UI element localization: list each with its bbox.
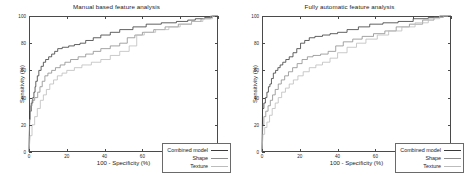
y-tick-mark — [262, 70, 265, 71]
x-tick-mark — [218, 16, 219, 19]
y-tick-label: 0 — [256, 150, 259, 155]
y-tick-label: 100 — [251, 14, 259, 19]
panel-title-manual: Manual based feature analysis — [0, 3, 233, 11]
x-tick-mark — [180, 16, 181, 19]
x-tick-mark — [142, 149, 143, 152]
legend-entry: Combined model — [167, 146, 228, 154]
legend-entry: Shape — [167, 154, 228, 162]
y-tick-mark — [448, 125, 451, 126]
plot-area-automatic: 020406080100020406080100 — [262, 16, 451, 152]
x-tick-mark — [67, 16, 68, 19]
x-tick-mark — [451, 16, 452, 19]
y-tick-label: 40 — [21, 95, 26, 100]
legend-right: Combined model Shape Texture — [395, 143, 464, 173]
legend-line-swatch — [211, 166, 228, 167]
y-tick-mark — [215, 70, 218, 71]
y-tick-mark — [262, 152, 265, 153]
y-tick-mark — [215, 43, 218, 44]
y-tick-mark — [262, 98, 265, 99]
legend-label: Combined model — [400, 147, 441, 153]
roc-curves-right — [262, 16, 451, 152]
x-tick-label: 0 — [261, 154, 264, 159]
x-tick-mark — [338, 16, 339, 19]
legend-left: Combined model Shape Texture — [162, 143, 231, 173]
y-tick-label: 80 — [254, 41, 259, 46]
x-tick-label: 40 — [102, 154, 107, 159]
x-tick-mark — [105, 16, 106, 19]
x-tick-mark — [338, 149, 339, 152]
y-tick-mark — [262, 125, 265, 126]
y-tick-label: 80 — [21, 41, 26, 46]
y-axis-label-wrap-left: Sensitivity (%) — [6, 16, 18, 152]
legend-line-swatch — [444, 166, 461, 167]
x-tick-mark — [375, 149, 376, 152]
x-tick-mark — [105, 149, 106, 152]
x-tick-label: 0 — [28, 154, 31, 159]
y-tick-mark — [448, 43, 451, 44]
x-tick-label: 20 — [64, 154, 69, 159]
roc-figure: Manual based feature analysis Sensitivit… — [0, 0, 466, 176]
legend-entry: Texture — [400, 162, 461, 170]
x-tick-mark — [413, 16, 414, 19]
x-tick-mark — [300, 149, 301, 152]
panel-automatic: Fully automatic feature analysis Sensiti… — [233, 0, 466, 176]
legend-line-swatch — [444, 158, 461, 159]
y-tick-mark — [29, 70, 32, 71]
y-tick-mark — [29, 98, 32, 99]
x-tick-label: 40 — [335, 154, 340, 159]
legend-line-swatch — [211, 158, 228, 159]
x-tick-mark — [300, 16, 301, 19]
y-tick-mark — [29, 43, 32, 44]
legend-label: Shape — [192, 155, 208, 161]
legend-entry: Combined model — [400, 146, 461, 154]
roc-curve-shape — [29, 16, 218, 152]
y-axis-label-right: Sensitivity (%) — [252, 44, 258, 124]
y-tick-mark — [29, 152, 32, 153]
y-tick-label: 20 — [21, 122, 26, 127]
panel-manual: Manual based feature analysis Sensitivit… — [0, 0, 233, 176]
legend-label: Combined model — [167, 147, 208, 153]
roc-curves-left — [29, 16, 218, 152]
panel-title-automatic: Fully automatic feature analysis — [233, 3, 466, 11]
legend-line-swatch — [211, 150, 228, 151]
y-tick-label: 40 — [254, 95, 259, 100]
y-tick-mark — [29, 125, 32, 126]
y-tick-mark — [448, 70, 451, 71]
y-tick-label: 60 — [254, 68, 259, 73]
x-tick-mark — [67, 149, 68, 152]
legend-entry: Shape — [400, 154, 461, 162]
y-axis-label-wrap-right: Sensitivity (%) — [239, 16, 251, 152]
y-tick-label: 100 — [18, 14, 26, 19]
y-tick-mark — [262, 43, 265, 44]
legend-label: Shape — [425, 155, 441, 161]
y-tick-label: 20 — [254, 122, 259, 127]
x-tick-mark — [29, 16, 30, 19]
x-tick-mark — [142, 16, 143, 19]
y-axis-label-left: Sensitivity (%) — [19, 44, 25, 124]
x-tick-mark — [29, 149, 30, 152]
legend-label: Texture — [423, 163, 441, 169]
y-tick-label: 60 — [21, 68, 26, 73]
x-tick-label: 60 — [140, 154, 145, 159]
x-tick-mark — [262, 149, 263, 152]
legend-label: Texture — [190, 163, 208, 169]
roc-curve-texture — [29, 16, 218, 152]
plot-area-manual: 020406080100020406080100 — [29, 16, 218, 152]
x-tick-label: 20 — [297, 154, 302, 159]
y-tick-mark — [215, 98, 218, 99]
x-tick-mark — [375, 16, 376, 19]
legend-line-swatch — [444, 150, 461, 151]
legend-entry: Texture — [167, 162, 228, 170]
x-tick-label: 60 — [373, 154, 378, 159]
y-tick-mark — [448, 98, 451, 99]
roc-curve-texture — [262, 16, 451, 152]
roc-curve-combined-model — [29, 16, 218, 152]
y-tick-label: 0 — [23, 150, 26, 155]
y-tick-mark — [215, 125, 218, 126]
x-tick-mark — [262, 16, 263, 19]
